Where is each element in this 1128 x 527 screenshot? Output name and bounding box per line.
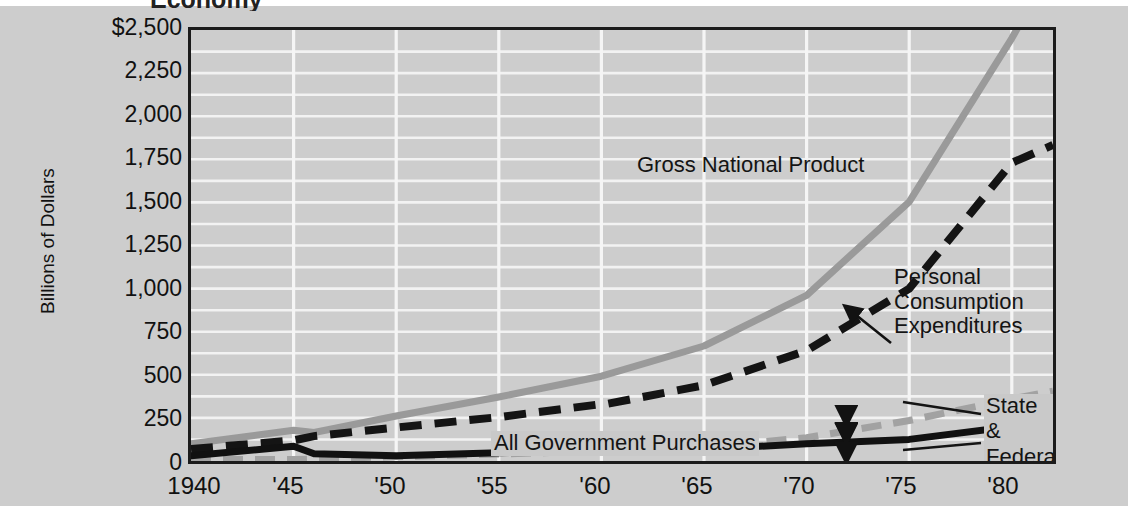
y-tick-1750: 1,750 bbox=[124, 146, 182, 169]
y-axis-title: Billions of Dollars bbox=[37, 131, 59, 351]
x-tick-50: '50 bbox=[360, 472, 420, 500]
y-tick-2500: $2,500 bbox=[112, 16, 182, 39]
clipped-headline: Economy bbox=[150, 0, 570, 11]
y-axis-tick-labels: $2,500 2,250 2,000 1,750 1,500 1,250 1,0… bbox=[0, 0, 182, 527]
pce-label-line-3: Expenditures bbox=[894, 314, 1024, 339]
y-tick-750: 750 bbox=[144, 320, 182, 343]
y-tick-2250: 2,250 bbox=[124, 59, 182, 82]
x-tick-1940: 1940 bbox=[154, 472, 234, 500]
y-tick-2000: 2,000 bbox=[124, 103, 182, 126]
figure-root: Economy $2,500 2,250 2,000 1,750 1,500 1… bbox=[0, 0, 1128, 527]
pce-label-line-1: Personal bbox=[894, 265, 1024, 290]
y-tick-250: 250 bbox=[144, 407, 182, 430]
annotation-personal-consumption-expenditures: Personal Consumption Expenditures bbox=[894, 265, 1024, 339]
x-tick-65: '65 bbox=[667, 472, 727, 500]
x-tick-75: '75 bbox=[871, 472, 931, 500]
annotation-gross-national-product: Gross National Product bbox=[637, 153, 864, 178]
state-local-label-line-1: State & bbox=[986, 394, 1051, 443]
y-tick-1500: 1,500 bbox=[124, 190, 182, 213]
annotation-federal: Federal bbox=[984, 445, 1053, 461]
x-tick-45: '45 bbox=[258, 472, 318, 500]
federal-leader-line bbox=[903, 443, 981, 450]
annotation-all-government-purchases: All Government Purchases bbox=[491, 431, 759, 456]
x-tick-55: '55 bbox=[462, 472, 522, 500]
x-tick-80: '80 bbox=[973, 472, 1033, 500]
y-tick-0: 0 bbox=[169, 451, 182, 474]
y-tick-1250: 1,250 bbox=[124, 233, 182, 256]
state-local-leader-line bbox=[903, 402, 981, 414]
plot-area: Gross National Product Personal Consumpt… bbox=[188, 27, 1056, 464]
y-tick-500: 500 bbox=[144, 364, 182, 387]
x-tick-60: '60 bbox=[565, 472, 625, 500]
x-tick-70: '70 bbox=[769, 472, 829, 500]
pce-leader-arrow bbox=[846, 307, 891, 343]
plot-inner: Gross National Product Personal Consumpt… bbox=[191, 30, 1053, 461]
annotation-decorations bbox=[191, 30, 1053, 461]
pce-label-line-2: Consumption bbox=[894, 290, 1024, 315]
y-tick-1000: 1,000 bbox=[124, 277, 182, 300]
